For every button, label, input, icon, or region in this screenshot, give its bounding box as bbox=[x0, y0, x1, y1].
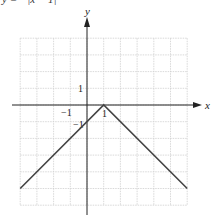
x-axis-arrow-icon bbox=[193, 102, 202, 108]
x-tick-neg1: −1 bbox=[61, 107, 72, 118]
y-axis-arrow-icon bbox=[84, 17, 90, 27]
y-tick-1: 1 bbox=[78, 83, 83, 94]
graph: x y 1 −1 1 −1 bbox=[0, 0, 218, 221]
y-axis-label: y bbox=[84, 5, 90, 17]
x-axis-label: x bbox=[204, 99, 210, 111]
y-tick-neg1: −1 bbox=[73, 119, 84, 130]
x-tick-1: 1 bbox=[102, 108, 107, 119]
grid bbox=[20, 38, 187, 205]
